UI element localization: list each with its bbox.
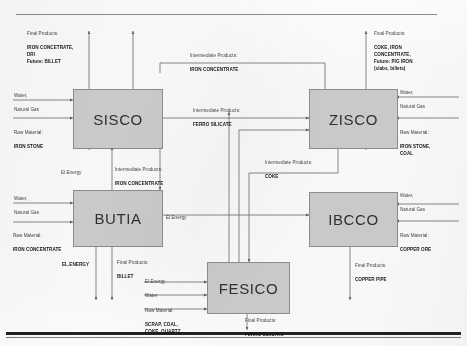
caption: Final Products: bbox=[374, 31, 405, 36]
caption: Raw Material: bbox=[400, 233, 429, 238]
value: COKE, IRON CONCENTRATE, Future: PIG IRON… bbox=[374, 45, 413, 71]
label-flow-coke: Intermediate Products: COKE bbox=[265, 153, 361, 181]
caption: Intermediate Products: bbox=[265, 160, 312, 165]
caption: El.Energy bbox=[61, 170, 81, 175]
value: IRON CONCENTRATE bbox=[190, 67, 238, 72]
value: BILLET bbox=[117, 274, 133, 279]
value: IRON STONE bbox=[14, 144, 43, 149]
value: Natural Gas bbox=[400, 104, 425, 109]
caption: Intermediate Products: bbox=[115, 167, 162, 172]
caption: Water, bbox=[400, 193, 413, 198]
caption: El.Energy bbox=[145, 279, 165, 284]
label-zisco-raw-material: Raw Material: IRON STONE, COAL bbox=[400, 123, 462, 158]
node-sisco[interactable]: SISCO bbox=[73, 89, 163, 149]
value: COKE bbox=[265, 174, 278, 179]
label-fesico-raw-material: Raw Material: SCRAP, COAL, COKE, QUARTZ, bbox=[145, 301, 207, 336]
value: Natural Gas bbox=[400, 207, 425, 212]
caption: Water, bbox=[400, 90, 413, 95]
caption: Final Products: bbox=[245, 318, 276, 323]
caption: Raw Material: bbox=[14, 130, 43, 135]
label-fesico-elenergy-input: El.Energy bbox=[145, 272, 195, 286]
caption: Raw Material: bbox=[13, 233, 42, 238]
label-zisco-final-products: Final Products: COKE, IRON CONCENTRATE, … bbox=[374, 24, 452, 73]
label-flow-ferro-silicate: Intermediate Products: FERRO SILICATE bbox=[193, 101, 293, 129]
label-butia-water: Water, Natural Gas bbox=[14, 189, 74, 217]
value: COPPER ORE bbox=[400, 247, 431, 252]
label-sisco-raw-material: Raw Material: IRON STONE bbox=[14, 123, 76, 151]
label-flow-elenergy-sisco: El.Energy bbox=[61, 163, 105, 177]
caption: Water bbox=[145, 293, 157, 298]
caption: El.Energy bbox=[166, 215, 186, 220]
label-ibcco-water: Water, Natural Gas bbox=[400, 186, 460, 214]
node-ibcco[interactable]: IBCCO bbox=[309, 192, 398, 247]
label-butia-elenergy-output: EL.ENERGY bbox=[62, 255, 114, 269]
label-fesico-final-products: Final Products: FERRO SILICATE bbox=[245, 311, 315, 339]
label-flow-iron-concentrate-butia: Intermediate Products: IRON CONCENTRATE bbox=[115, 160, 211, 188]
value: SCRAP, COAL, COKE, QUARTZ, bbox=[145, 322, 182, 334]
node-zisco[interactable]: ZISCO bbox=[309, 89, 398, 149]
label-ibcco-raw-material: Raw Material: COPPER ORE bbox=[400, 226, 464, 254]
value: IRON STONE, COAL bbox=[400, 144, 430, 156]
label-sisco-final-products: Final Products: IRON CONCETRATE, DRI Fut… bbox=[27, 24, 99, 66]
caption: Intermediate Products: bbox=[190, 53, 237, 58]
value: IRON CONCENTRATE bbox=[13, 247, 61, 252]
value: FERRO SILICATE bbox=[245, 332, 284, 337]
diagram-canvas: SISCO ZISCO BUTIA IBCCO FESICO Final Pro… bbox=[0, 0, 467, 346]
value: FERRO SILICATE bbox=[193, 122, 232, 127]
node-butia[interactable]: BUTIA bbox=[73, 190, 163, 247]
value: COPPER PIPE bbox=[355, 277, 387, 282]
label-flow-iron-concentrate-top: Intermediate Products: IRON CONCENTRATE bbox=[190, 46, 290, 74]
value: IRON CONCENTRATE bbox=[115, 181, 163, 186]
label-fesico-water-input: Water bbox=[145, 286, 195, 300]
node-fesico[interactable]: FESICO bbox=[207, 262, 290, 314]
caption: Final Products: bbox=[27, 31, 58, 36]
label-flow-elenergy-ibcco: El.Energy bbox=[166, 208, 210, 222]
label-sisco-water: Water, Natural Gas bbox=[14, 86, 74, 114]
caption: Water, bbox=[14, 196, 27, 201]
value: Natural Gas bbox=[14, 107, 39, 112]
label-ibcco-final-products: Final Products: COPPER PIPE bbox=[355, 256, 419, 284]
label-butia-raw-material: Raw Material: IRON CONCENTRATE bbox=[13, 226, 83, 254]
caption: Final Products: bbox=[355, 263, 386, 268]
caption: Final Products: bbox=[117, 260, 148, 265]
caption: Raw Material: bbox=[145, 308, 174, 313]
value: IRON CONCETRATE, DRI Future: BILLET bbox=[27, 45, 73, 64]
value: EL.ENERGY bbox=[62, 262, 89, 267]
value: Natural Gas bbox=[14, 210, 39, 215]
label-zisco-water: Water, Natural Gas bbox=[400, 83, 460, 111]
caption: Water, bbox=[14, 93, 27, 98]
caption: Intermediate Products: bbox=[193, 108, 240, 113]
caption: Raw Material: bbox=[400, 130, 429, 135]
